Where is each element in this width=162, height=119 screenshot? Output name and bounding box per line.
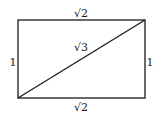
bottom-side-label: √2 bbox=[74, 101, 88, 114]
rectangle-diagram: √2 √2 1 1 √3 bbox=[0, 0, 162, 119]
top-side-label: √2 bbox=[74, 7, 88, 20]
left-side-label: 1 bbox=[10, 56, 17, 69]
right-side-label: 1 bbox=[147, 56, 154, 69]
diagonal-label: √3 bbox=[74, 41, 88, 54]
diagonal-line bbox=[18, 20, 145, 98]
